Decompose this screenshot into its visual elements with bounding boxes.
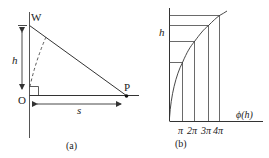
x-tick-2pi: 2π: [187, 125, 198, 136]
figure-a: W O P h s (a): [12, 11, 139, 152]
label-h: h: [12, 54, 18, 66]
label-o: O: [18, 94, 26, 106]
figure-b: h ϕ(h) π 2π 3π 4π (b): [159, 8, 263, 150]
label-s: s: [77, 104, 81, 116]
x-tick-pi: π: [178, 125, 184, 136]
caption-a: (a): [66, 140, 77, 152]
y-axis-label: h: [159, 26, 165, 38]
x-tick-4pi: 4π: [213, 125, 224, 136]
label-w: W: [31, 11, 42, 23]
x-tick-3pi: 3π: [200, 125, 212, 136]
label-p: P: [124, 81, 130, 93]
phi-curve: [170, 11, 228, 118]
figure-canvas: W O P h s (a) h ϕ(h) π 2π 3π 4π (b): [0, 0, 269, 158]
point-p-dot: [125, 94, 129, 98]
right-angle-marker: [30, 87, 39, 96]
hypotenuse-line: [30, 26, 128, 97]
caption-b: (b): [175, 138, 187, 150]
dashed-arc: [30, 37, 46, 86]
x-axis-label: ϕ(h): [236, 109, 254, 121]
